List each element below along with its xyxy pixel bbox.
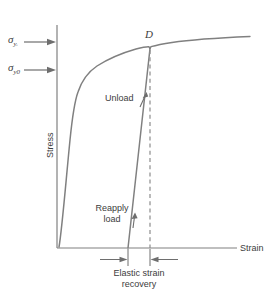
increased-yield-arrow-head (47, 39, 56, 45)
reapply-load-annotation: Reapply load (92, 203, 132, 225)
reapply-load-line-2: load (92, 214, 132, 225)
original-yield-strength-label: σy0 (8, 62, 20, 78)
recovery-right-arrow-head (151, 257, 159, 263)
stress-strain-figure: σyᵢ σy0 Stress Strain D Unload Reapply l… (0, 0, 267, 296)
axes-group (57, 25, 237, 248)
original-yield-arrow-head (47, 67, 56, 73)
reapply-load-line-1: Reapply (92, 203, 132, 214)
elastic-strain-recovery-annotation: Elastic strain recovery (89, 268, 189, 290)
loading-curve (59, 36, 250, 247)
elastic-recovery-dimension (100, 249, 178, 266)
x-axis-label: Strain (240, 243, 264, 254)
stress-strain-plot (0, 0, 267, 296)
increased-yield-arrow (24, 39, 56, 45)
unload-annotation: Unload (105, 93, 134, 104)
point-d-label: D (145, 29, 153, 40)
elastic-strain-recovery-line-1: Elastic strain (89, 268, 189, 279)
reapply-direction-arrow (132, 213, 138, 229)
recovery-left-arrow-head (120, 257, 128, 263)
yield-stress-arrows (24, 39, 56, 73)
y-axis-label: Stress (45, 132, 56, 158)
elastic-strain-recovery-line-2: recovery (89, 279, 189, 290)
sigma-subscript-y0: y0 (13, 68, 20, 76)
original-yield-arrow (24, 67, 56, 73)
sigma-subscript-yi: yᵢ (13, 40, 17, 48)
increased-yield-strength-label: σyᵢ (8, 34, 18, 50)
